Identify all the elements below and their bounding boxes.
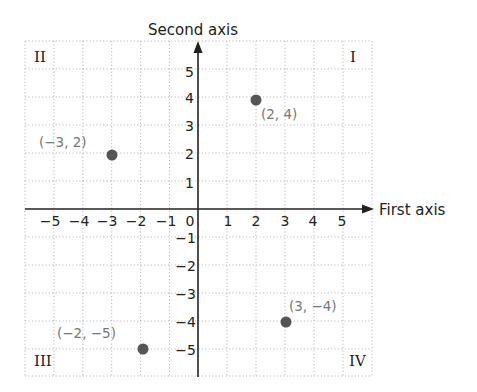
coordinate-plane: Second axis First axis −5 −4 −3 −2 −1 0 … bbox=[0, 0, 477, 392]
data-point-3-m4 bbox=[281, 317, 292, 328]
quadrant-label-iv: IV bbox=[349, 352, 367, 370]
x-tick: 1 bbox=[224, 213, 233, 229]
x-tick: −1 bbox=[156, 213, 177, 229]
y-tick: −5 bbox=[175, 342, 196, 358]
data-point-m3-2 bbox=[107, 150, 118, 161]
x-tick: 3 bbox=[281, 213, 290, 229]
point-label: (2, 4) bbox=[261, 106, 297, 122]
y-tick: 2 bbox=[185, 146, 194, 162]
y-axis-arrow-icon bbox=[194, 41, 203, 53]
x-tick-origin: 0 bbox=[186, 213, 195, 229]
x-tick: 4 bbox=[309, 213, 318, 229]
x-tick-labels: −5 −4 −3 −2 −1 0 1 2 3 4 5 bbox=[40, 213, 347, 229]
y-axis-title: Second axis bbox=[148, 21, 238, 39]
data-point-m2-m5 bbox=[138, 344, 149, 355]
y-tick: −3 bbox=[175, 286, 196, 302]
quadrant-label-iii: III bbox=[34, 352, 52, 370]
x-tick: −4 bbox=[69, 213, 90, 229]
y-tick: 1 bbox=[185, 175, 194, 191]
x-tick: 5 bbox=[338, 213, 347, 229]
x-tick: −2 bbox=[126, 213, 147, 229]
y-tick: −4 bbox=[175, 314, 196, 330]
y-tick: 5 bbox=[185, 64, 194, 80]
quadrant-label-ii: II bbox=[34, 48, 46, 66]
x-tick: −3 bbox=[97, 213, 118, 229]
x-tick: −5 bbox=[40, 213, 61, 229]
data-point-2-4 bbox=[251, 95, 262, 106]
x-tick: 2 bbox=[252, 213, 261, 229]
y-tick: 4 bbox=[185, 90, 194, 106]
y-tick: 3 bbox=[185, 118, 194, 134]
y-tick: −2 bbox=[175, 258, 196, 274]
y-tick-labels: 5 4 3 2 1 −1 −2 −3 −4 −5 bbox=[175, 64, 196, 358]
quadrant-label-i: I bbox=[350, 48, 356, 66]
y-tick: −1 bbox=[175, 230, 196, 246]
x-axis-title: First axis bbox=[379, 201, 446, 219]
point-label: (−3, 2) bbox=[39, 134, 87, 150]
point-label: (−2, −5) bbox=[57, 325, 116, 341]
point-label: (3, −4) bbox=[289, 298, 337, 314]
